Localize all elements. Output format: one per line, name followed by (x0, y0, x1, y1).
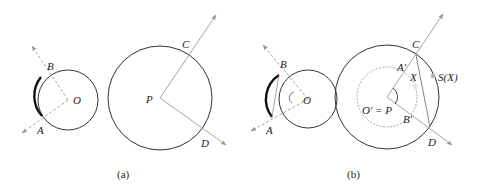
arc-ab-b (266, 75, 279, 117)
label-a-b: A (265, 124, 273, 136)
geometry-figure: B A O C D P (a) B A O C A' (0, 0, 482, 187)
label-b-b: B (280, 58, 287, 70)
panel-a: B A O C D P (a) (22, 15, 226, 181)
panel-b: B A O C A' X S(X) O' = P B' D (b) (251, 14, 458, 181)
caption-b: (b) (347, 168, 360, 181)
label-c-b: C (412, 38, 420, 50)
label-d-b: D (427, 136, 436, 148)
label-o-b: O (303, 94, 311, 106)
label-a-prime: A' (396, 61, 407, 73)
label-b: B (47, 60, 54, 72)
ray-ob-b (263, 45, 308, 99)
label-c: C (182, 38, 190, 50)
label-p: P (145, 93, 153, 105)
ray-pc (160, 15, 216, 98)
label-s-of-x: S(X) (438, 71, 458, 84)
point-x-inner (413, 84, 418, 89)
label-d: D (200, 137, 209, 149)
label-a: A (36, 124, 44, 136)
chord-cd (416, 55, 430, 127)
label-b-prime: B' (403, 113, 413, 125)
point-s-of-x (431, 74, 436, 79)
angle-mark-o (289, 92, 294, 103)
label-x: X (409, 71, 418, 83)
ray-oa (22, 100, 68, 133)
label-o-prime-eq-p: O' = P (362, 104, 392, 116)
label-o: O (73, 94, 81, 106)
ray-ob (32, 46, 68, 100)
caption-a: (a) (117, 168, 130, 181)
